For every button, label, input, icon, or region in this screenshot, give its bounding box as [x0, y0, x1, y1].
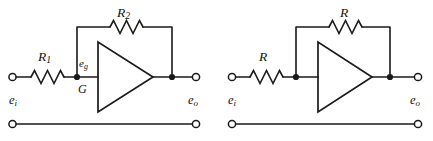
left-output-voltage-label: eo — [188, 94, 198, 108]
left-amplifier-triangle — [98, 42, 153, 112]
right-feedback-right-leg — [362, 27, 390, 77]
left-input-voltage-label: ei — [9, 94, 17, 108]
circuit-schematic-svg — [0, 0, 433, 141]
right-series-resistor-r — [250, 71, 283, 84]
left-summing-node-label: eg — [79, 58, 88, 71]
left-circuit-group — [9, 21, 200, 128]
right-series-resistor-label: R — [259, 50, 267, 65]
right-amplifier-triangle — [318, 42, 372, 112]
left-feedback-resistor-r2 — [110, 21, 143, 34]
left-output-terminal[interactable] — [192, 73, 199, 80]
right-bottom-input-terminal[interactable] — [228, 120, 235, 127]
figure-canvas: R1 R2 eg G ei eo R R ei eo — [0, 0, 433, 141]
right-bottom-output-terminal[interactable] — [414, 120, 421, 127]
right-feedback-resistor-label: R — [340, 6, 348, 21]
left-feedback-right-leg — [143, 27, 172, 77]
left-series-resistor-label: R1 — [38, 50, 51, 65]
left-bottom-output-terminal[interactable] — [192, 120, 199, 127]
right-input-voltage-label: ei — [228, 94, 236, 108]
left-input-terminal[interactable] — [9, 73, 16, 80]
right-output-voltage-label: eo — [410, 94, 420, 108]
left-series-resistor-r1 — [31, 71, 64, 84]
left-ground-node-label: G — [78, 83, 87, 95]
left-bottom-input-terminal[interactable] — [9, 120, 16, 127]
right-feedback-left-leg — [296, 27, 329, 77]
right-output-terminal[interactable] — [414, 73, 421, 80]
left-feedback-resistor-label: R2 — [117, 6, 130, 21]
right-circuit-group — [228, 21, 421, 128]
right-feedback-resistor-r — [329, 21, 362, 34]
right-input-terminal[interactable] — [228, 73, 235, 80]
